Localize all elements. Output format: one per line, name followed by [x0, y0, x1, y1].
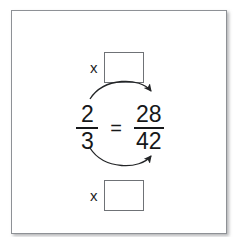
- worksheet-card-surface: x 2 3 =: [12, 11, 226, 233]
- worksheet-card: x 2 3 =: [11, 10, 227, 234]
- top-multiplier-row: x: [90, 52, 144, 83]
- left-fraction: 2 3: [76, 103, 98, 154]
- left-numerator: 2: [79, 103, 96, 127]
- right-fraction: 28 42: [134, 103, 164, 154]
- bottom-multiplier-row: x: [90, 180, 144, 211]
- top-answer-box[interactable]: [104, 52, 144, 83]
- equals-sign: =: [110, 117, 122, 140]
- right-numerator: 28: [134, 103, 164, 127]
- proportion-equation: 2 3 = 28 42: [12, 103, 228, 154]
- bottom-answer-box[interactable]: [104, 180, 144, 211]
- worksheet-canvas: x 2 3 =: [0, 0, 239, 237]
- top-multiply-symbol: x: [90, 60, 98, 76]
- right-denominator: 42: [134, 129, 164, 153]
- left-denominator: 3: [79, 129, 96, 153]
- arrow-numerator-top: [90, 81, 151, 99]
- bottom-multiply-symbol: x: [90, 188, 98, 204]
